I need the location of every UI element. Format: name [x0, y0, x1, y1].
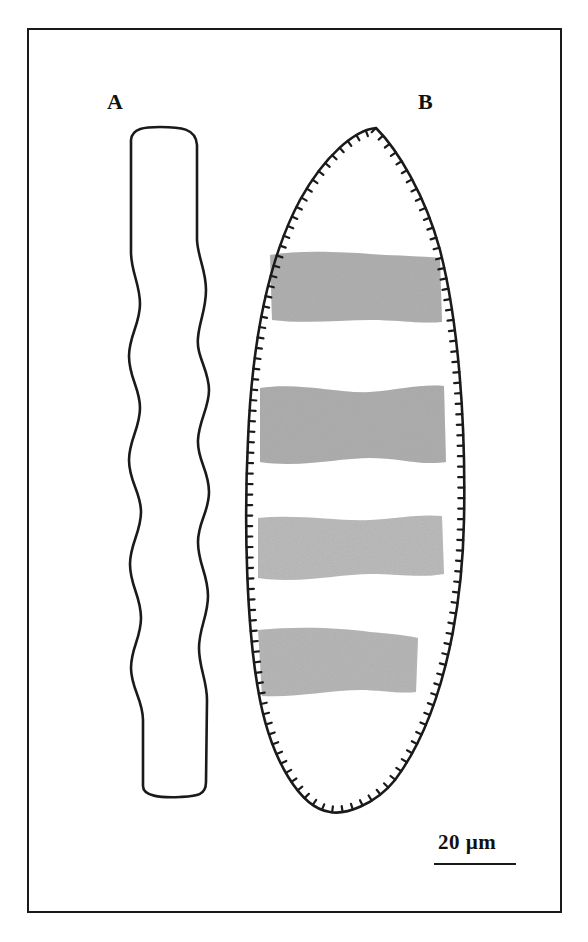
panel-b-bands [258, 252, 446, 696]
band-2 [260, 386, 446, 464]
scale-bar-label: 20 µm [438, 830, 496, 855]
band-1 [270, 252, 442, 323]
figure-drawing [0, 0, 588, 942]
band-3 [258, 515, 444, 579]
scale-bar [434, 863, 516, 865]
panel-a-outline [129, 127, 209, 797]
band-4 [258, 628, 418, 697]
panel-b-outline [246, 128, 464, 813]
